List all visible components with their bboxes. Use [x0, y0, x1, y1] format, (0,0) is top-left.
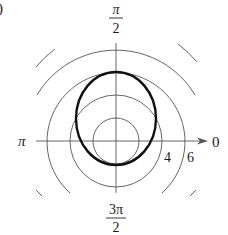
grid-circle-r10-arc-tr: [178, 44, 197, 62]
label-pi: π: [18, 133, 26, 149]
grid-circle-r10-arc-tl: [36, 49, 55, 67]
part-label-fragment: ): [0, 0, 3, 17]
polar-grid: [36, 44, 197, 196]
label-3pi-over-2: 3π 2: [106, 202, 126, 235]
svg-text:π: π: [112, 2, 120, 17]
grid-circle-r10-arc-bl: [36, 190, 42, 196]
label-pi-over-2: π 2: [109, 2, 123, 36]
polar-graph: ) π 2 3π 2 π 0 4 6: [0, 0, 228, 235]
svg-text:2: 2: [113, 21, 120, 36]
radius-label-6: 6: [187, 150, 194, 165]
svg-text:2: 2: [113, 220, 120, 235]
svg-text:3π: 3π: [109, 202, 123, 217]
radius-label-4: 4: [164, 150, 171, 165]
grid-circle-r10-arc-br: [190, 190, 196, 196]
label-zero: 0: [212, 134, 220, 150]
